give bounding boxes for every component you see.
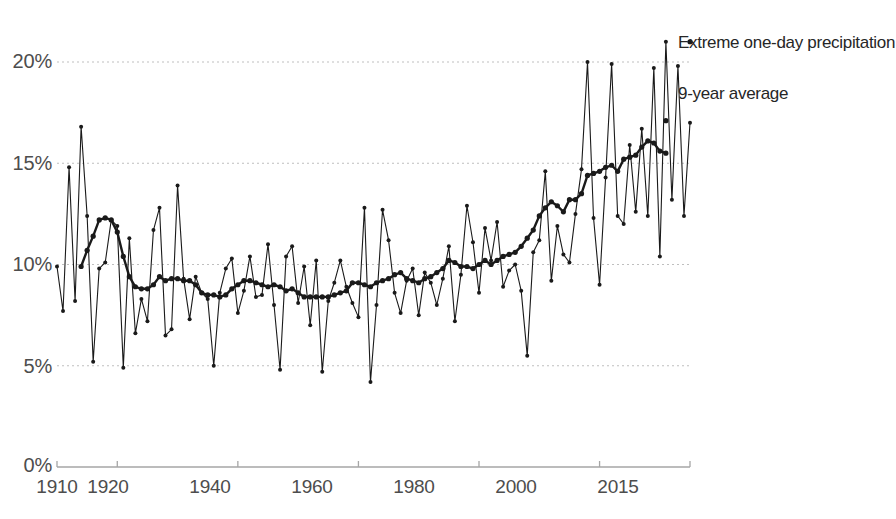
series-label-extreme-one-day-precipitation: Extreme one-day precipitation bbox=[678, 33, 895, 53]
axis-lines bbox=[57, 461, 690, 467]
gridlines bbox=[57, 62, 692, 366]
xtick-label-1980: 1980 bbox=[379, 476, 449, 498]
chart-plot-area bbox=[0, 0, 896, 519]
series-label-9-year-average: 9-year average bbox=[678, 84, 788, 104]
xtick-label-1960: 1960 bbox=[277, 476, 347, 498]
series-9-year-average bbox=[79, 138, 669, 299]
xtick-label-1920: 1920 bbox=[73, 476, 143, 498]
series-extreme-one-day-precipitation bbox=[55, 39, 693, 384]
xtick-label-1940: 1940 bbox=[175, 476, 245, 498]
ytick-label-5: 5% bbox=[0, 355, 52, 378]
ytick-label-10: 10% bbox=[0, 253, 52, 276]
ytick-label-20: 20% bbox=[0, 50, 52, 73]
ytick-label-0: 0% bbox=[0, 454, 52, 477]
xtick-label-2000: 2000 bbox=[481, 476, 551, 498]
ytick-label-15: 15% bbox=[0, 152, 52, 175]
extreme-precipitation-chart: 20% 15% 10% 5% 0% 1910 1920 1940 1960 19… bbox=[0, 0, 896, 519]
xtick-label-2015: 2015 bbox=[583, 476, 653, 498]
